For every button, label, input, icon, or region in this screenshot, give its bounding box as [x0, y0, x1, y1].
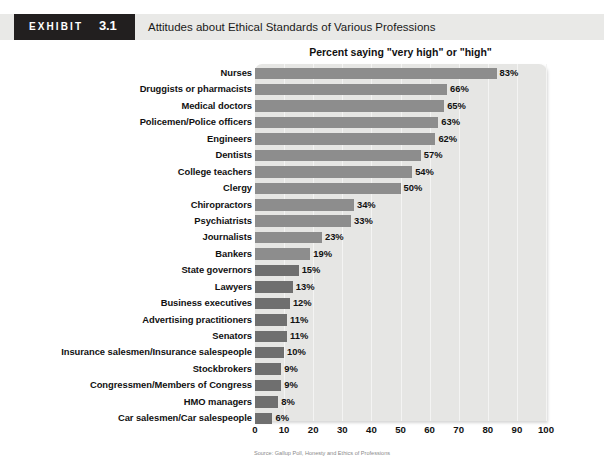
- chart-category-label: Insurance salesmen/Insurance salespeople: [61, 346, 252, 358]
- chart-bar: [255, 117, 438, 129]
- chart-bar-row: Senators11%: [0, 329, 604, 345]
- chart-category-label: Bankers: [215, 248, 252, 260]
- chart-x-tick: 20: [308, 424, 319, 436]
- chart-category-label: Congressmen/Members of Congress: [90, 379, 252, 391]
- chart-category-label: HMO managers: [184, 396, 252, 408]
- chart-bar: [255, 281, 293, 293]
- chart-value-label: 10%: [287, 346, 306, 358]
- chart-value-label: 23%: [325, 231, 344, 243]
- chart-bar: [255, 363, 281, 375]
- exhibit-title: Attitudes about Ethical Standards of Var…: [148, 20, 435, 34]
- chart-value-label: 9%: [284, 379, 298, 391]
- chart-category-label: Stockbrokers: [193, 363, 252, 375]
- chart-value-label: 13%: [296, 281, 315, 293]
- source-note: Source: Gallup Poll, Honesty and Ethics …: [102, 450, 542, 457]
- chart-bar-row: State governors15%: [0, 263, 604, 279]
- chart-bar: [255, 84, 447, 96]
- chart-value-label: 66%: [450, 83, 469, 95]
- chart-bar: [255, 248, 310, 260]
- chart-category-label: Druggists or pharmacists: [140, 83, 252, 95]
- chart-value-label: 11%: [290, 330, 308, 342]
- chart-bar-row: Chiropractors34%: [0, 198, 604, 214]
- chart-bar-row: Nurses83%: [0, 66, 604, 82]
- chart-bar: [255, 183, 401, 195]
- chart-value-label: 63%: [441, 116, 460, 128]
- exhibit-tag-number: 3.1: [99, 19, 116, 33]
- chart-category-label: College teachers: [178, 166, 252, 178]
- chart-bar: [255, 166, 412, 178]
- chart-value-label: 57%: [424, 149, 443, 161]
- chart-category-label: Engineers: [207, 133, 252, 145]
- chart-category-label: Senators: [212, 330, 252, 342]
- chart-bar-row: HMO managers8%: [0, 395, 604, 411]
- chart-x-tick: 0: [252, 424, 257, 436]
- chart-value-label: 62%: [438, 133, 457, 145]
- chart-bar-row: Medical doctors65%: [0, 99, 604, 115]
- chart-bar-row: College teachers54%: [0, 165, 604, 181]
- chart-category-label: Lawyers: [215, 281, 252, 293]
- chart-bar-row: Psychiatrists33%: [0, 214, 604, 230]
- chart-bar-row: Dentists57%: [0, 148, 604, 164]
- chart-value-label: 19%: [313, 248, 332, 260]
- chart-value-label: 65%: [447, 100, 466, 112]
- chart-category-label: Business executives: [161, 297, 252, 309]
- chart-bar-row: Clergy50%: [0, 181, 604, 197]
- chart-x-tick: 90: [512, 424, 523, 436]
- chart-bar: [255, 347, 284, 359]
- chart-bar: [255, 265, 299, 277]
- chart-category-label: Car salesmen/Car salespeople: [118, 412, 252, 424]
- chart-bar-row: Druggists or pharmacists66%: [0, 82, 604, 98]
- chart-category-label: Dentists: [215, 149, 252, 161]
- chart-value-label: 33%: [354, 215, 373, 227]
- chart-title: Percent saying "very high" or "high": [255, 46, 546, 58]
- chart-value-label: 50%: [404, 182, 423, 194]
- chart-bar: [255, 68, 497, 80]
- chart-category-label: Policemen/Police officers: [140, 116, 252, 128]
- chart-bar-row: Policemen/Police officers63%: [0, 115, 604, 131]
- chart-value-label: 9%: [284, 363, 298, 375]
- chart-bar: [255, 314, 287, 326]
- chart-x-tick: 70: [453, 424, 464, 436]
- chart-x-tick: 50: [395, 424, 406, 436]
- chart-value-label: 12%: [293, 297, 312, 309]
- chart-category-label: Nurses: [221, 67, 253, 79]
- chart-category-label: State governors: [181, 264, 252, 276]
- chart-category-label: Medical doctors: [181, 100, 252, 112]
- chart-category-label: Clergy: [223, 182, 252, 194]
- chart-value-label: 15%: [302, 264, 321, 276]
- exhibit-tag: EXHIBIT 3.1: [14, 14, 135, 40]
- chart-bar-row: Bankers19%: [0, 247, 604, 263]
- chart-bar-row: Congressmen/Members of Congress9%: [0, 378, 604, 394]
- chart-bar: [255, 232, 322, 244]
- chart-category-label: Advertising practitioners: [142, 314, 252, 326]
- chart-bar-row: Engineers62%: [0, 132, 604, 148]
- chart-bar-rows: Nurses83%Druggists or pharmacists66%Medi…: [0, 66, 604, 428]
- chart-x-tick: 40: [366, 424, 377, 436]
- chart-value-label: 11%: [290, 314, 308, 326]
- chart-bar-row: Stockbrokers9%: [0, 362, 604, 378]
- chart-bar: [255, 331, 287, 343]
- chart-bar: [255, 133, 435, 145]
- chart-bar: [255, 298, 290, 310]
- chart-bar: [255, 396, 278, 408]
- chart-value-label: 83%: [500, 67, 519, 79]
- chart-bar: [255, 199, 354, 211]
- chart-bar-row: Lawyers13%: [0, 280, 604, 296]
- chart-bar: [255, 380, 281, 392]
- chart-bar-row: Advertising practitioners11%: [0, 313, 604, 329]
- chart-x-tick: 30: [337, 424, 348, 436]
- chart-bar: [255, 100, 444, 112]
- chart-x-tick: 100: [538, 424, 554, 436]
- chart-category-label: Psychiatrists: [194, 215, 252, 227]
- chart-value-label: 34%: [357, 199, 376, 211]
- chart-bar: [255, 413, 272, 425]
- chart-x-tick: 80: [482, 424, 493, 436]
- chart-x-axis: 0102030405060708090100: [255, 424, 546, 438]
- chart-x-tick: 10: [279, 424, 290, 436]
- chart-category-label: Journalists: [203, 231, 252, 243]
- chart-value-label: 8%: [281, 396, 295, 408]
- chart-x-tick: 60: [424, 424, 435, 436]
- exhibit-tag-word: EXHIBIT: [29, 21, 83, 33]
- exhibit-header: EXHIBIT 3.1 Attitudes about Ethical Stan…: [0, 14, 604, 40]
- chart-bar: [255, 215, 351, 227]
